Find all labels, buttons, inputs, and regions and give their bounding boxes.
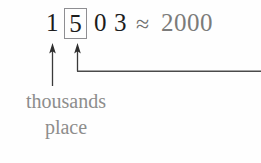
caption-thousands: thousands <box>0 90 132 113</box>
digit-tens: 0 <box>94 6 107 40</box>
rounded-value: 2000 <box>161 6 213 40</box>
number-expression: 1 5 0 3 ≈ 2000 <box>0 6 261 42</box>
caption-place: place <box>0 116 132 139</box>
approximately-equal-icon: ≈ <box>136 7 149 41</box>
rounding-diagram: 1 5 0 3 ≈ 2000 thousands place <box>0 0 261 163</box>
digit-ones: 3 <box>114 6 127 40</box>
hundreds-digit-arrow-icon <box>74 43 261 71</box>
digit-thousands: 1 <box>46 6 59 40</box>
digit-hundreds-boxed: 5 <box>64 8 87 39</box>
thousands-place-arrow-icon <box>49 43 56 86</box>
